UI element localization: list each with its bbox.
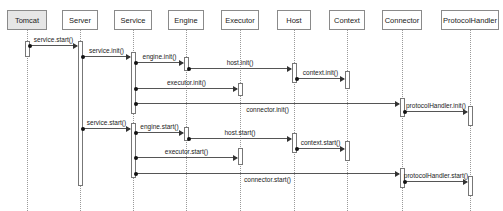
message-arrow [189, 138, 291, 139]
message-label: service.start() [34, 36, 73, 43]
participant-service: Service [114, 10, 152, 30]
message-origin-dot [81, 127, 85, 131]
lifeline [27, 30, 28, 211]
message-origin-dot [134, 172, 138, 176]
message-arrow [136, 103, 399, 104]
participant-executor: Executor [221, 10, 259, 30]
participant-host: Host [277, 10, 311, 30]
message-origin-dot [295, 77, 299, 81]
message-arrow [83, 128, 130, 129]
message-label: executor.init() [167, 79, 206, 86]
message-arrow [136, 132, 183, 133]
activation-bar [400, 98, 405, 117]
lifeline [294, 30, 295, 211]
participant-protocolhandler: ProtocolHandler [441, 10, 499, 30]
message-label: host.start() [224, 129, 255, 136]
message-label: context.start() [301, 139, 341, 146]
message-arrow [405, 181, 467, 182]
lifeline [347, 30, 348, 211]
message-arrow [83, 56, 130, 57]
message-label: context.init() [303, 69, 338, 76]
message-label: connector.start() [244, 176, 291, 183]
message-arrow [30, 45, 77, 46]
activation-bar [345, 71, 350, 89]
message-label: engine.init() [143, 53, 177, 60]
message-label: connector.init() [246, 106, 289, 113]
message-origin-dot [187, 67, 191, 71]
message-label: service.init() [89, 47, 124, 54]
message-arrow [405, 111, 467, 112]
activation-bar [78, 41, 83, 186]
activation-bar [468, 176, 473, 196]
message-arrow [136, 157, 237, 158]
message-arrow [136, 62, 183, 63]
sequence-diagram: TomcatServerServiceEngineExecutorHostCon… [0, 0, 503, 211]
participant-server: Server [62, 10, 98, 30]
participant-connector: Connector [382, 10, 422, 30]
message-arrow [136, 88, 237, 89]
message-origin-dot [295, 147, 299, 151]
message-arrow [189, 68, 291, 69]
message-origin-dot [81, 55, 85, 59]
message-origin-dot [403, 110, 407, 114]
activation-bar [238, 148, 243, 165]
message-origin-dot [134, 156, 138, 160]
message-origin-dot [134, 61, 138, 65]
message-origin-dot [134, 87, 138, 91]
message-arrow [136, 173, 399, 174]
message-label: protocolHandler.init() [406, 102, 466, 109]
message-label: executor.start() [165, 148, 208, 155]
message-label: host.init() [227, 59, 254, 66]
participant-engine: Engine [168, 10, 204, 30]
lifeline [240, 30, 241, 211]
message-label: engine.start() [140, 123, 178, 130]
message-origin-dot [403, 180, 407, 184]
activation-bar [238, 83, 243, 96]
message-origin-dot [134, 102, 138, 106]
activation-bar [468, 106, 473, 126]
participant-tomcat: Tomcat [7, 10, 47, 30]
activation-bar [345, 141, 350, 161]
message-arrow [297, 78, 344, 79]
message-label: protocolHandler.start() [404, 172, 468, 179]
message-origin-dot [134, 131, 138, 135]
participant-context: Context [329, 10, 365, 30]
message-label: service.start() [87, 119, 126, 126]
message-origin-dot [187, 137, 191, 141]
message-origin-dot [28, 44, 32, 48]
message-arrow [297, 148, 344, 149]
